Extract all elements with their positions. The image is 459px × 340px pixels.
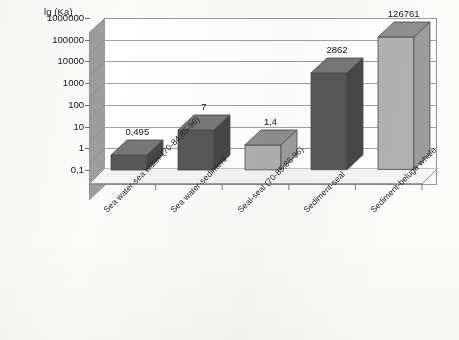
x-axis-category-label: Sediment-beluga whale [368, 145, 438, 215]
x-axis-category-label: Sea water-sediment [168, 154, 228, 214]
chart-container: lg (Ka) 1000000 [0, 0, 459, 340]
x-axis-labels: Sea water-sea water (70-84;85-96)Sea wat… [0, 0, 459, 340]
x-axis-category-label: Seal-seal (70-85;86-96) [235, 144, 305, 214]
x-axis-category-label: Sediment-seal [302, 169, 347, 214]
